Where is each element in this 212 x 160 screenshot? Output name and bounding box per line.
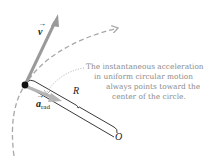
circular-motion-diagram: → v → arad R O The instantaneous acceler… [0,0,212,160]
caption-line-4: center of the circle. [112,92,212,102]
acceleration-subscript: rad [41,103,50,111]
caption-line-2: in uniform circular motion [94,72,212,82]
acceleration-label: → arad [36,98,50,111]
center-label: O [115,131,122,142]
caption-text: The instantaneous acceleration in unifor… [86,62,212,102]
particle-dot [22,82,29,89]
caption-line-1: The instantaneous acceleration [86,62,212,72]
velocity-label: → v [38,26,42,37]
radius-label: R [73,85,79,96]
caption-line-3: always points toward the [106,82,212,92]
